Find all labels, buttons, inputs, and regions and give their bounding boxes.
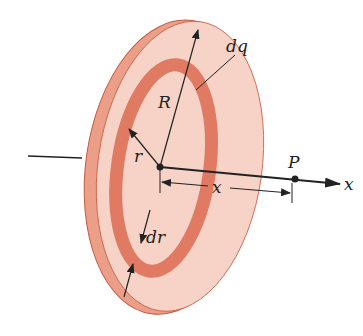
label-axis-x: x xyxy=(344,174,354,194)
label-r: r xyxy=(134,146,143,166)
label-dq: dq xyxy=(226,36,248,56)
label-R: R xyxy=(157,92,171,112)
label-distance-x: x xyxy=(212,177,222,197)
label-P: P xyxy=(287,152,300,172)
point-P-dot xyxy=(292,176,299,183)
label-dr: dr xyxy=(146,227,166,247)
disk-center-dot xyxy=(157,164,164,171)
axis-left-segment xyxy=(28,156,82,158)
charged-disk-diagram: dq R r P x x dr xyxy=(0,0,363,336)
